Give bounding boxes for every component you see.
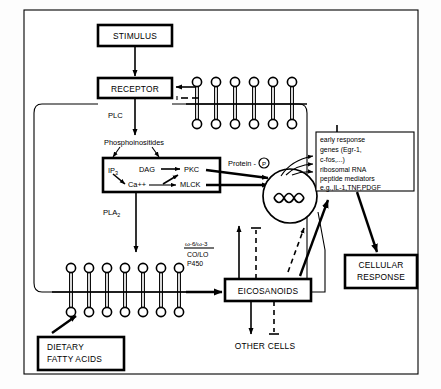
co-lo-label: CO/LO	[187, 251, 209, 258]
receptor-label: RECEPTOR	[111, 84, 159, 94]
gene-line-1: early response	[320, 136, 365, 144]
pkc-label: PKC	[184, 165, 200, 174]
plc-label: PLC	[108, 111, 123, 120]
gene-line-5: peptide mediators	[320, 175, 375, 183]
eicosanoids-label: EICOSANOIDS	[238, 286, 299, 296]
cellular-response-line-1: CELLULAR	[359, 260, 404, 270]
dietary-line-1: DIETARY	[47, 342, 84, 352]
other-cells-label: OTHER CELLS	[235, 341, 296, 351]
gene-line-3: c-fos,...)	[320, 156, 345, 164]
p450-label: P450	[187, 260, 203, 267]
gene-line-4: ribosomal RNA	[320, 166, 367, 173]
phosphate-p-label: P	[262, 160, 266, 167]
gene-line-6: e.g.,IL-1,TNF,PDGF	[320, 184, 381, 192]
figure-root: STIMULUS RECEPTOR	[0, 0, 441, 389]
calcium-label: Ca++	[128, 180, 146, 189]
omega-ratio-label: ω-6/ω-3	[185, 240, 208, 247]
phosphoinositides-label: Phosphoinositides	[104, 138, 164, 147]
dag-label: DAG	[139, 165, 155, 174]
stimulus-label: STIMULUS	[113, 31, 157, 41]
protein-phosphorylation-label: Protein -	[228, 159, 256, 168]
dietary-line-2: FATTY ACIDS	[47, 354, 102, 364]
cellular-response-line-2: RESPONSE	[357, 272, 405, 282]
signaling-pathway-diagram: STIMULUS RECEPTOR	[0, 0, 441, 389]
second-messenger-box[interactable]	[103, 158, 220, 192]
mlck-label: MLCK	[180, 180, 201, 189]
nucleus[interactable]	[263, 169, 317, 223]
gene-line-2: genes (Egr-1,	[320, 146, 362, 154]
